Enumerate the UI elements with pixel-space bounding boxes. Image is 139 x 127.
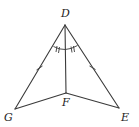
- label-G: G: [4, 111, 13, 124]
- angle-ticks-FDE: [71, 46, 75, 53]
- angle-ticks-GDF: [56, 46, 60, 53]
- segment-DG: [15, 25, 65, 109]
- label-D: D: [60, 7, 70, 20]
- geometry-diagram: D G F E: [0, 0, 139, 127]
- segment-DF: [65, 25, 66, 93]
- side-tick-DG: [37, 66, 43, 70]
- label-E: E: [120, 111, 129, 124]
- label-F: F: [61, 96, 70, 109]
